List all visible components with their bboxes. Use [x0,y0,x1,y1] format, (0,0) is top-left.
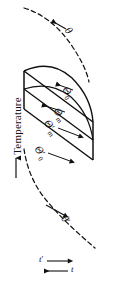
lower-theta-prime-arrow [46,205,64,215]
time-axis-arrows [44,261,68,271]
y-axis-label: Temperature [11,78,23,174]
thetam-prime-arrow [58,128,79,136]
upper-dashed-curve [24,8,89,82]
label-t-prime: t′ [39,255,43,264]
theta0-prime-arrow [48,153,70,161]
temperature-time-diagram: Temperature θ Θ0 Θm Θ′m Θ′0 θ′ t′ t [0,0,118,283]
label-t: t [71,265,74,274]
lower-dashed-curve [24,149,95,248]
